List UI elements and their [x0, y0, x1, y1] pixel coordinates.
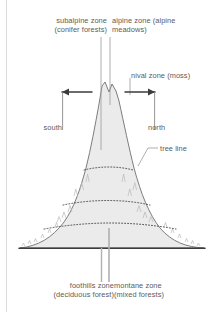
- label-montane-zone: montane zone (mixed forests): [114, 281, 208, 300]
- label-foothills-line2: (deciduous forest): [14, 290, 114, 299]
- label-nival-zone: nival zone (moss): [131, 71, 209, 80]
- south-arrow: [62, 88, 92, 130]
- mountain-zones-diagram: subalpine zone (conifer forests) alpine …: [0, 0, 209, 312]
- label-alpine-zone: alpine zone (alpine meadows): [112, 16, 208, 35]
- label-tree-line: tree line: [160, 144, 208, 153]
- tree-line-leader: [138, 148, 158, 166]
- label-foothills-line1: foothills zone: [14, 281, 114, 290]
- label-subalpine-line1: subalpine zone: [17, 16, 107, 25]
- label-subalpine-line2: (conifer forests): [17, 25, 107, 34]
- label-south: south: [24, 123, 62, 132]
- diagram-canvas: [0, 0, 209, 312]
- label-subalpine-zone: subalpine zone (conifer forests): [17, 16, 107, 35]
- label-montane-line2: (mixed forests): [114, 290, 208, 299]
- mountain-silhouette: [20, 82, 204, 248]
- label-alpine-line1: alpine zone (alpine: [112, 16, 208, 25]
- label-north: north: [148, 123, 188, 132]
- label-alpine-line2: meadows): [112, 25, 208, 34]
- label-foothills-zone: foothills zone (deciduous forest): [14, 281, 114, 300]
- label-montane-line1: montane zone: [114, 281, 208, 290]
